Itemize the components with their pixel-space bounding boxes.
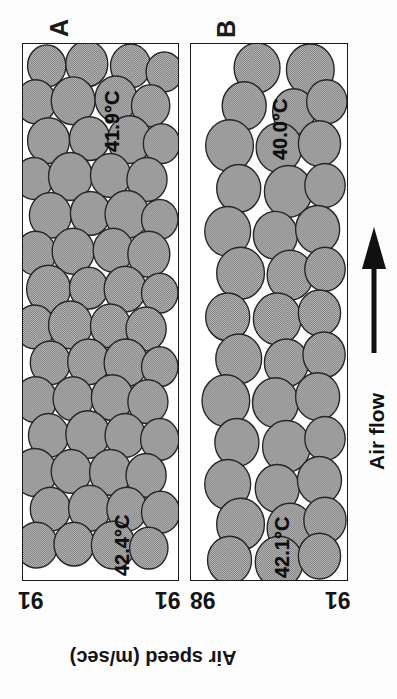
particle [298, 533, 340, 579]
particle [305, 164, 345, 208]
axis-title: Air speed (m/sec) [28, 648, 278, 668]
particle [215, 419, 259, 467]
particle [305, 247, 345, 291]
particle [208, 536, 252, 580]
particle [296, 205, 340, 253]
particle [305, 417, 345, 461]
temperature-label-a-top: 41.9°C [102, 91, 122, 152]
tick-label-b-left: 98 [190, 588, 216, 611]
airflow-label: Air flow [366, 362, 387, 502]
temperature-label-b-bottom: 42.1°C [272, 517, 292, 578]
particle [217, 247, 265, 299]
tick-label-b-right: 91 [325, 588, 351, 611]
airflow-arrow-icon [360, 225, 388, 355]
particle [296, 373, 340, 421]
particle [252, 378, 298, 428]
particle [253, 293, 301, 345]
particle [54, 522, 94, 566]
particle [217, 165, 261, 213]
figure-root: A B 41.9°C 42.4°C 40.0°C 42.1°C 91 91 98… [0, 0, 397, 699]
particle [298, 290, 340, 336]
particle [206, 120, 254, 172]
particle [307, 80, 347, 124]
airflow-annotation: Air flow [352, 225, 396, 485]
particle [303, 332, 345, 378]
particle [297, 456, 341, 504]
particle [130, 527, 168, 569]
particle [298, 121, 340, 167]
tick-label-a-left: 91 [18, 588, 44, 611]
panel-label-b: B [214, 20, 239, 38]
temperature-label-a-bottom: 42.4°C [112, 515, 132, 576]
tick-label-a-right: 91 [155, 588, 181, 611]
panel-label-a: A [47, 19, 72, 37]
particle [23, 522, 58, 568]
temperature-label-b-top: 40.0°C [270, 99, 290, 160]
